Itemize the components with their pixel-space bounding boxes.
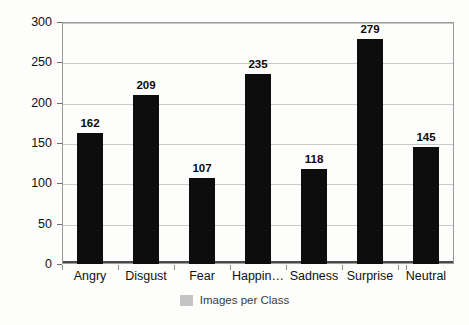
y-tick-label: 150	[0, 137, 52, 149]
bar-value-label: 118	[286, 153, 342, 166]
y-tick-label: 0	[0, 258, 52, 270]
x-axis-tick-end	[406, 265, 407, 270]
y-tick-label: 100	[0, 177, 52, 189]
bar-value-label: 235	[230, 58, 286, 71]
bar-value-label: 209	[118, 79, 174, 92]
bar-slot: 279	[342, 22, 398, 264]
bar-value-label: 107	[174, 162, 230, 175]
y-tick-label: 50	[0, 218, 52, 230]
bar-value-label: 279	[342, 23, 398, 36]
bar[interactable]	[77, 133, 103, 264]
bar[interactable]	[133, 95, 159, 264]
x-axis-category-label: Disgust	[118, 265, 174, 289]
legend-label-images-per-class: Images per Class	[200, 294, 289, 307]
bar-slot: 107	[174, 22, 230, 264]
bar-chart: Number of Images 300250200150100500 1622…	[0, 0, 469, 325]
x-axis-category-label: Fear	[174, 265, 230, 289]
legend: Images per Class	[0, 294, 469, 307]
bar-slot: 209	[118, 22, 174, 264]
bar[interactable]	[301, 169, 327, 264]
bar[interactable]	[189, 178, 215, 264]
legend-swatch-images-per-class	[180, 295, 193, 306]
bars-layer: 162209107235118279145	[62, 22, 454, 264]
bar[interactable]	[357, 39, 383, 264]
bar[interactable]	[413, 147, 439, 264]
bar-slot: 235	[230, 22, 286, 264]
bar-value-label: 145	[398, 131, 454, 144]
bar-slot: 162	[62, 22, 118, 264]
y-tick-label: 300	[0, 16, 52, 28]
bar-slot: 145	[398, 22, 454, 264]
x-axis-category-label: Angry	[62, 265, 118, 289]
x-axis-category-label: Surprise	[342, 265, 398, 289]
x-axis-labels: AngryDisgustFearHappin…SadnessSurpriseNe…	[62, 265, 454, 289]
y-tick-label: 250	[0, 56, 52, 68]
x-axis-category-label: Happin…	[230, 265, 286, 289]
bar-slot: 118	[286, 22, 342, 264]
x-axis-category-label: Sadness	[286, 265, 342, 289]
y-tick-label: 200	[0, 97, 52, 109]
bar-value-label: 162	[62, 117, 118, 130]
bar[interactable]	[245, 74, 271, 264]
